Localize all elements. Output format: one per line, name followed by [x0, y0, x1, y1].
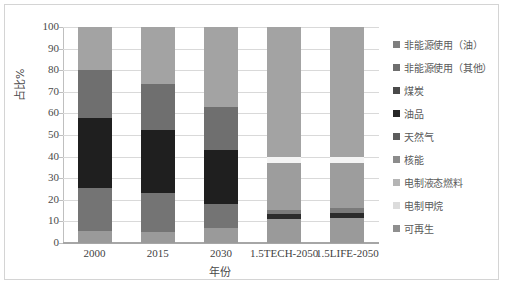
legend-label: 可再生 — [404, 221, 433, 236]
y-tick-mark — [59, 243, 63, 244]
legend-label: 非能源使用（其他） — [404, 60, 492, 75]
legend-item[interactable]: 天然气 — [393, 125, 499, 148]
bar-segment[interactable] — [267, 219, 301, 243]
bar-segment[interactable] — [204, 107, 238, 150]
legend-item[interactable]: 核能 — [393, 148, 499, 171]
legend-swatch-icon — [393, 156, 400, 163]
y-tick-label: 90 — [13, 43, 59, 54]
bar-segment[interactable] — [204, 27, 238, 107]
legend-label: 煤炭 — [404, 83, 424, 98]
bar-segment[interactable] — [141, 130, 175, 194]
x-axis-title: 年份 — [209, 263, 231, 279]
legend-swatch-icon — [393, 87, 400, 94]
legend-label: 天然气 — [404, 129, 433, 144]
y-axis-tick-labels: 0102030405060708090100 — [5, 27, 59, 243]
bar-segment[interactable] — [78, 188, 112, 231]
legend-label: 油品 — [404, 106, 424, 121]
legend-label: 核能 — [404, 152, 424, 167]
y-tick-mark — [59, 135, 63, 136]
y-tick-label: 10 — [13, 215, 59, 226]
bar-segment[interactable] — [330, 208, 364, 212]
y-tick-mark — [59, 157, 63, 158]
bar-segment[interactable] — [204, 228, 238, 243]
legend-label: 电制甲烷 — [404, 198, 443, 213]
bar-segment[interactable] — [141, 232, 175, 243]
bar-segment[interactable] — [78, 231, 112, 243]
bar-segment[interactable] — [330, 213, 364, 218]
legend-item[interactable]: 电制甲烷 — [393, 194, 499, 217]
y-tick-mark — [59, 113, 63, 114]
y-tick-mark — [59, 200, 63, 201]
bar-segment[interactable] — [78, 118, 112, 188]
bar-segment[interactable] — [204, 204, 238, 228]
bar-segment[interactable] — [267, 214, 301, 219]
legend-swatch-icon — [393, 64, 400, 71]
legend-item[interactable]: 电制液态燃料 — [393, 171, 499, 194]
bar-segment[interactable] — [330, 27, 364, 157]
y-tick-label: 40 — [13, 151, 59, 162]
legend-swatch-icon — [393, 225, 400, 232]
y-tick-label: 20 — [13, 194, 59, 205]
y-tick-label: 50 — [13, 129, 59, 140]
bar-segment[interactable] — [267, 27, 301, 157]
bar-segment[interactable] — [330, 157, 364, 163]
y-tick-mark — [59, 221, 63, 222]
legend-item[interactable]: 非能源使用（油） — [393, 33, 499, 56]
bar-1.5TECH-2050[interactable] — [267, 27, 301, 243]
bar-segment[interactable] — [141, 84, 175, 129]
plot-area — [63, 27, 379, 243]
y-tick-mark — [59, 27, 63, 28]
bar-2030[interactable] — [204, 27, 238, 243]
legend-swatch-icon — [393, 179, 400, 186]
y-tick-mark — [59, 178, 63, 179]
bar-segment[interactable] — [330, 163, 364, 208]
y-tick-label: 60 — [13, 107, 59, 118]
x-tick-label: 1.5LIFE-2050 — [297, 247, 397, 259]
legend-swatch-icon — [393, 133, 400, 140]
y-tick-label: 70 — [13, 86, 59, 97]
chart-frame: 占比% 0102030405060708090100 年份 非能源使用（油）非能… — [4, 4, 499, 280]
bar-segment[interactable] — [330, 218, 364, 243]
legend-swatch-icon — [393, 110, 400, 117]
bar-2000[interactable] — [78, 27, 112, 243]
bar-segment[interactable] — [78, 27, 112, 70]
y-tick-label: 100 — [13, 21, 59, 32]
bar-segment[interactable] — [141, 193, 175, 232]
legend-item[interactable]: 可再生 — [393, 217, 499, 240]
y-tick-mark — [59, 92, 63, 93]
legend-label: 非能源使用（油） — [404, 37, 482, 52]
bar-segment[interactable] — [141, 27, 175, 84]
bar-segment[interactable] — [204, 150, 238, 204]
y-tick-mark — [59, 70, 63, 71]
legend-item[interactable]: 油品 — [393, 102, 499, 125]
y-tick-mark — [59, 49, 63, 50]
gridline — [63, 243, 379, 244]
y-tick-label: 30 — [13, 172, 59, 183]
bar-1.5LIFE-2050[interactable] — [330, 27, 364, 243]
legend-item[interactable]: 煤炭 — [393, 79, 499, 102]
y-tick-label: 80 — [13, 64, 59, 75]
legend-label: 电制液态燃料 — [404, 175, 463, 190]
bar-segment[interactable] — [267, 157, 301, 163]
legend-swatch-icon — [393, 41, 400, 48]
legend-item[interactable]: 非能源使用（其他） — [393, 56, 499, 79]
bar-2015[interactable] — [141, 27, 175, 243]
chart-legend: 非能源使用（油）非能源使用（其他）煤炭油品天然气核能电制液态燃料电制甲烷可再生 — [393, 33, 499, 240]
legend-swatch-icon — [393, 202, 400, 209]
bar-segment[interactable] — [78, 70, 112, 118]
bar-segment[interactable] — [267, 163, 301, 209]
bar-segment[interactable] — [267, 210, 301, 214]
